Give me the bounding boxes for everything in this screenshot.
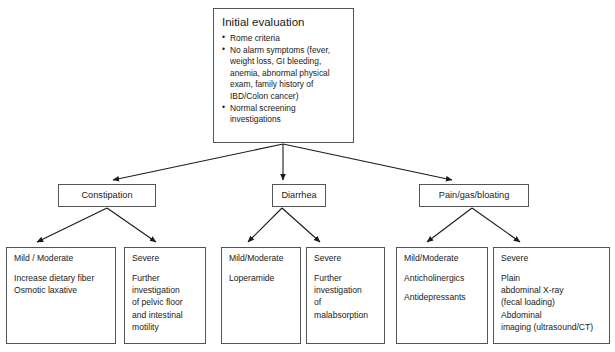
- arrow-diarrhea-to-mild: [248, 208, 282, 242]
- leaf-line: (fecal loading): [501, 296, 602, 308]
- leaf-line: malabsorption: [314, 309, 377, 321]
- leaf-line: imaging (ultrasound/CT): [501, 321, 602, 333]
- node-constipation-mild-moderate: Mild / Moderate Increase dietary fiber O…: [6, 247, 116, 344]
- leaf-line: and intestinal: [132, 309, 198, 321]
- leaf-line: investigation: [314, 284, 377, 296]
- arrow-constipation-to-severe: [107, 208, 156, 242]
- node-initial-evaluation-heading: Initial evaluation: [222, 15, 345, 30]
- leaf-line: Antidepressants: [404, 291, 480, 303]
- leaf-line: Further: [314, 272, 377, 284]
- arrow-diarrhea-to-severe: [282, 208, 320, 242]
- leaf-severity-label: Mild / Moderate: [14, 253, 108, 264]
- arrow-constipation-to-mild: [37, 208, 107, 242]
- leaf-line: Further: [132, 272, 198, 284]
- bullet-item: No alarm symptoms (fever, weight loss, G…: [222, 45, 345, 103]
- leaf-severity-label: Mild/Moderate: [229, 253, 293, 264]
- node-pain-gas-bloating-label: Pain/gas/bloating: [439, 190, 510, 202]
- leaf-severity-label: Severe: [132, 253, 198, 264]
- leaf-line: Plain: [501, 272, 602, 284]
- node-diarrhea: Diarrhea: [272, 184, 326, 207]
- node-pain-mild-moderate: Mild/Moderate Anticholinergics Antidepre…: [396, 247, 488, 344]
- bullet-item: Normal screening investigations: [222, 103, 345, 126]
- arrow-initial-to-pain: [283, 144, 452, 180]
- node-constipation-severe: Severe Further investigation of pelvic f…: [124, 247, 206, 344]
- leaf-line: Osmotic laxative: [14, 284, 108, 296]
- flowchart-canvas: Initial evaluation Rome criteria No alar…: [0, 0, 615, 352]
- leaf-treatment-list: Further investigation of malabsorption: [314, 272, 377, 321]
- node-diarrhea-label: Diarrhea: [281, 190, 316, 202]
- node-pain-severe: Severe Plain abdominal X-ray (fecal load…: [493, 247, 610, 344]
- leaf-treatment-list: Increase dietary fiber Osmotic laxative: [14, 272, 108, 296]
- leaf-treatment-list: Further investigation of pelvic floor an…: [132, 272, 198, 333]
- leaf-treatment-list: Anticholinergics Antidepressants: [404, 272, 480, 303]
- leaf-line: Increase dietary fiber: [14, 272, 108, 284]
- leaf-severity-label: Severe: [501, 253, 602, 264]
- node-diarrhea-mild-moderate: Mild/Moderate Loperamide: [221, 247, 301, 344]
- node-diarrhea-severe: Severe Further investigation of malabsor…: [306, 247, 385, 344]
- arrow-pain-to-mild: [427, 208, 472, 242]
- node-constipation: Constipation: [58, 184, 156, 207]
- leaf-spacer: [404, 284, 480, 291]
- leaf-line: Abdominal: [501, 309, 602, 321]
- leaf-treatment-list: Plain abdominal X-ray (fecal loading) Ab…: [501, 272, 602, 333]
- leaf-line: investigation: [132, 284, 198, 296]
- leaf-treatment-list: Loperamide: [229, 272, 293, 284]
- leaf-line: of pelvic floor: [132, 296, 198, 308]
- leaf-line: Anticholinergics: [404, 272, 480, 284]
- bullet-item: Rome criteria: [222, 33, 345, 45]
- node-pain-gas-bloating: Pain/gas/bloating: [419, 184, 529, 207]
- leaf-line: of: [314, 296, 377, 308]
- arrow-initial-to-constipation: [113, 144, 283, 180]
- leaf-severity-label: Severe: [314, 253, 377, 264]
- node-initial-evaluation: Initial evaluation Rome criteria No alar…: [213, 8, 354, 143]
- node-constipation-label: Constipation: [81, 190, 132, 202]
- initial-evaluation-bullet-list: Rome criteria No alarm symptoms (fever, …: [222, 33, 345, 126]
- leaf-line: abdominal X-ray: [501, 284, 602, 296]
- leaf-severity-label: Mild/Moderate: [404, 253, 480, 264]
- leaf-line: Loperamide: [229, 272, 293, 284]
- arrow-pain-to-severe: [472, 208, 520, 242]
- leaf-line: motility: [132, 321, 198, 333]
